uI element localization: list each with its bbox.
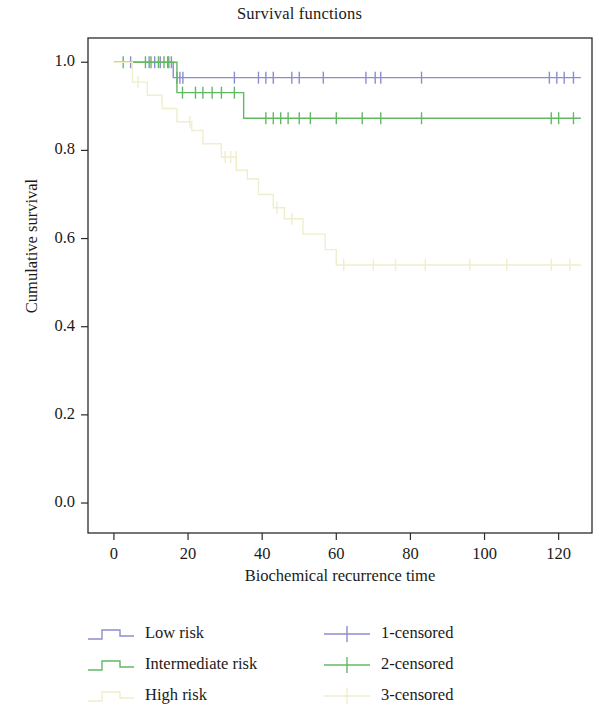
legend-item[interactable]: Low risk — [86, 618, 257, 649]
plus-marker-key — [322, 654, 372, 676]
plus-marker-key — [322, 623, 372, 645]
legend-item[interactable]: Intermediate risk — [86, 649, 257, 680]
legend-item-label: 2-censored — [381, 656, 453, 673]
x-tick-label: 60 — [306, 544, 366, 564]
x-axis-title: Biochemical recurrence time — [88, 566, 592, 586]
series-high-risk — [114, 62, 581, 271]
plot-frame — [88, 38, 592, 533]
legend-item-label: Low risk — [145, 625, 204, 642]
series-low-risk — [114, 56, 581, 83]
plot-canvas — [0, 0, 599, 600]
step-line-key — [86, 685, 136, 707]
legend-column-censored: 1-censored2-censored3-censored — [322, 618, 453, 711]
series-intermediate-risk — [114, 56, 581, 124]
plus-marker-key — [322, 654, 372, 676]
step-line-glyph — [88, 692, 134, 701]
legend-item[interactable]: 1-censored — [322, 618, 453, 649]
legend-column-curves: Low riskIntermediate riskHigh risk — [86, 618, 257, 711]
plus-marker-key — [322, 685, 372, 707]
step-line-key — [86, 654, 136, 676]
legend-item[interactable]: High risk — [86, 680, 257, 711]
step-line-key — [86, 623, 136, 645]
axis-ticks — [81, 62, 559, 540]
step-curve — [114, 62, 581, 118]
series-layer — [114, 56, 581, 271]
survival-functions-figure: Survival functions 0.00.20.40.60.81.0 02… — [0, 0, 599, 717]
legend-item[interactable]: 2-censored — [322, 649, 453, 680]
x-tick-label: 100 — [455, 544, 515, 564]
x-tick-label: 40 — [232, 544, 292, 564]
y-tick-label: 0.0 — [29, 492, 75, 512]
legend-item[interactable]: 3-censored — [322, 680, 453, 711]
x-tick-label: 20 — [158, 544, 218, 564]
y-axis-title: Cumulative survival — [22, 46, 42, 446]
x-tick-label: 0 — [84, 544, 144, 564]
x-tick-label: 80 — [380, 544, 440, 564]
chart-legend: Low riskIntermediate riskHigh risk 1-cen… — [0, 618, 599, 717]
step-line-key — [86, 654, 136, 676]
step-line-key — [86, 623, 136, 645]
plot-border — [88, 38, 592, 533]
x-tick-label: 120 — [529, 544, 589, 564]
step-line-glyph — [88, 630, 134, 639]
legend-item-label: 3-censored — [381, 687, 453, 704]
step-line-key — [86, 685, 136, 707]
plus-marker-key — [322, 623, 372, 645]
step-curve — [114, 62, 581, 77]
legend-item-label: High risk — [145, 687, 207, 704]
legend-item-label: Intermediate risk — [145, 656, 257, 673]
plus-marker-key — [322, 685, 372, 707]
legend-item-label: 1-censored — [381, 625, 453, 642]
step-line-glyph — [88, 661, 134, 670]
